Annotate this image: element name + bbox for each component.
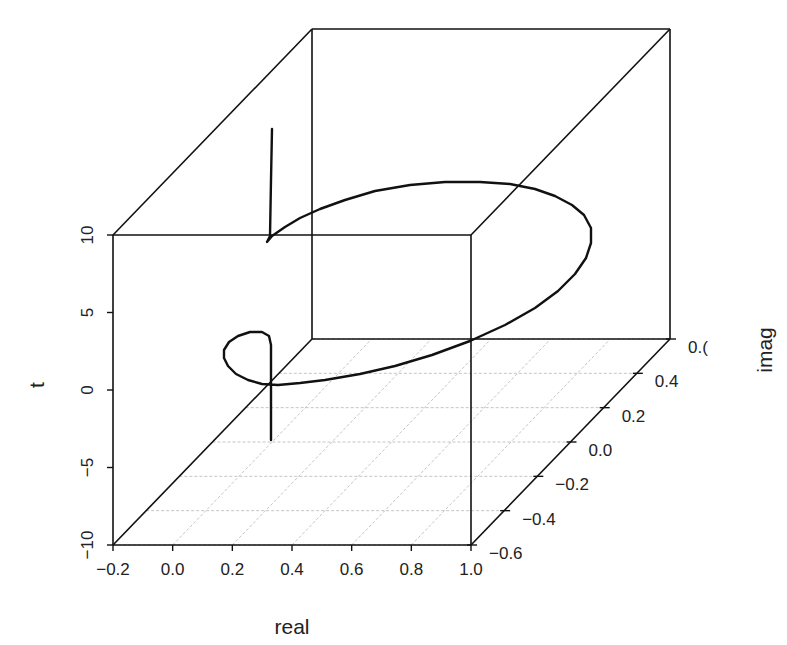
y-tick-label: −0.4	[522, 510, 556, 529]
y-axis-title: imag	[753, 327, 776, 373]
x-tick-label: 0.8	[400, 560, 424, 579]
x-tick-label: 0.2	[221, 560, 245, 579]
grid-line-real	[411, 339, 610, 545]
x-tick-label: 1.0	[459, 560, 483, 579]
y-tick-label: 0.(	[688, 338, 708, 357]
y-tick-label: 0.4	[655, 372, 679, 391]
x-tick-label: 0.0	[161, 560, 185, 579]
grid-line-real	[232, 339, 431, 545]
y-tick-label: 0.2	[622, 407, 646, 426]
box-edge	[113, 339, 312, 545]
x-axis-title: real	[274, 615, 309, 638]
z-tick-label: −10	[78, 531, 97, 560]
chart-3d-plot: −0.20.00.20.40.60.81.0−10−50510−0.6−0.4−…	[0, 0, 787, 645]
bounding-box-back	[113, 29, 670, 545]
grid-line-real	[292, 339, 491, 545]
z-tick-label: 5	[78, 308, 97, 317]
z-axis-title: t	[25, 382, 48, 388]
bounding-box-front	[113, 29, 670, 545]
y-tick-label: −0.6	[489, 544, 523, 563]
z-tick-label: 0	[78, 385, 97, 394]
x-tick-label: 0.6	[340, 560, 364, 579]
x-tick-label: −0.2	[96, 560, 130, 579]
floor-grid	[113, 339, 670, 545]
axis-tick-labels: −0.20.00.20.40.60.81.0−10−50510−0.6−0.4−…	[78, 226, 708, 579]
y-tick-label: −0.2	[555, 475, 589, 494]
z-tick-label: 10	[78, 226, 97, 245]
y-tick-label: 0.0	[589, 441, 613, 460]
box-edge	[113, 29, 312, 235]
trajectory-curve	[224, 129, 591, 440]
z-tick-label: −5	[78, 458, 97, 477]
x-tick-label: 0.4	[280, 560, 304, 579]
